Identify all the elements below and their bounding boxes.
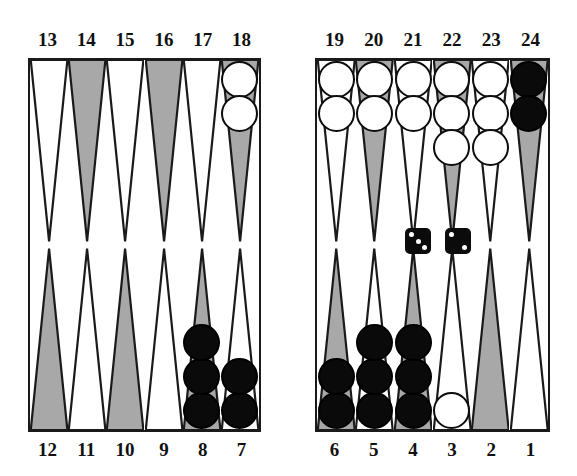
checker-black-point-5[interactable] (356, 392, 393, 429)
point-number-label-21: 21 (393, 30, 433, 50)
checker-white-point-22[interactable] (433, 95, 470, 132)
checker-white-point-23[interactable] (472, 95, 509, 132)
point-triangle-11 (69, 249, 106, 430)
point-2[interactable] (471, 245, 509, 430)
point-number-label-22: 22 (432, 30, 472, 50)
checker-white-point-20[interactable] (356, 61, 393, 98)
point-number-label-10: 10 (105, 440, 145, 460)
point-number-label-7: 7 (222, 440, 262, 460)
checker-black-point-24[interactable] (510, 61, 547, 98)
point-21[interactable] (394, 60, 432, 245)
quadrant-bottom-right (317, 245, 548, 430)
point-1[interactable] (510, 245, 548, 430)
point-8[interactable] (183, 245, 221, 430)
point-24[interactable] (510, 60, 548, 245)
point-5[interactable] (355, 245, 393, 430)
point-3[interactable] (433, 245, 471, 430)
checker-black-point-4[interactable] (395, 324, 432, 361)
checker-white-point-23[interactable] (472, 129, 509, 166)
point-triangle-12 (31, 249, 68, 430)
die-right[interactable] (445, 228, 471, 254)
checker-white-point-21[interactable] (395, 95, 432, 132)
point-triangle-10 (107, 249, 144, 430)
point-number-label-18: 18 (222, 30, 262, 50)
checker-black-point-8[interactable] (183, 358, 220, 395)
point-number-label-16: 16 (144, 30, 184, 50)
checker-black-point-6[interactable] (318, 392, 355, 429)
board-half-left (28, 58, 261, 432)
point-number-label-23: 23 (471, 30, 511, 50)
checker-black-point-8[interactable] (183, 392, 220, 429)
point-number-label-1: 1 (510, 440, 550, 460)
point-triangle-15 (107, 60, 144, 241)
checker-black-point-4[interactable] (395, 392, 432, 429)
point-number-label-14: 14 (66, 30, 106, 50)
point-9[interactable] (145, 245, 183, 430)
die-pip (462, 245, 467, 250)
point-number-label-9: 9 (144, 440, 184, 460)
point-number-label-15: 15 (105, 30, 145, 50)
point-13[interactable] (30, 60, 68, 245)
point-17[interactable] (183, 60, 221, 245)
point-triangle-1 (510, 249, 547, 430)
point-triangle-9 (145, 249, 182, 430)
point-number-label-6: 6 (315, 440, 355, 460)
point-16[interactable] (145, 60, 183, 245)
point-number-label-20: 20 (354, 30, 394, 50)
point-number-label-4: 4 (393, 440, 433, 460)
die-pip (409, 232, 414, 237)
quadrant-top-right (317, 60, 548, 245)
checker-black-point-6[interactable] (318, 358, 355, 395)
point-4[interactable] (394, 245, 432, 430)
point-20[interactable] (355, 60, 393, 245)
point-triangle-14 (69, 60, 106, 241)
checker-white-point-3[interactable] (433, 392, 470, 429)
checker-white-point-22[interactable] (433, 61, 470, 98)
board-half-right (315, 58, 550, 432)
die-pip (449, 232, 454, 237)
backgammon-board-figure: 131415161718192021222324 121110987654321 (0, 0, 577, 476)
point-7[interactable] (221, 245, 259, 430)
point-triangle-17 (183, 60, 220, 241)
checker-black-point-8[interactable] (183, 324, 220, 361)
point-number-label-24: 24 (510, 30, 550, 50)
point-number-label-5: 5 (354, 440, 394, 460)
point-number-label-12: 12 (27, 440, 67, 460)
point-triangle-13 (31, 60, 68, 241)
point-11[interactable] (68, 245, 106, 430)
point-number-label-8: 8 (183, 440, 223, 460)
checker-white-point-19[interactable] (318, 61, 355, 98)
quadrant-top-left (30, 60, 259, 245)
quadrant-bottom-left (30, 245, 259, 430)
die-pip (416, 239, 421, 244)
point-number-label-3: 3 (432, 440, 472, 460)
checker-black-point-24[interactable] (510, 95, 547, 132)
checker-black-point-5[interactable] (356, 324, 393, 361)
checker-white-point-20[interactable] (356, 95, 393, 132)
point-number-label-2: 2 (471, 440, 511, 460)
point-6[interactable] (317, 245, 355, 430)
point-number-label-11: 11 (66, 440, 106, 460)
checker-black-point-4[interactable] (395, 358, 432, 395)
die-left[interactable] (405, 228, 431, 254)
point-triangle-16 (145, 60, 182, 241)
die-pip (422, 245, 427, 250)
checker-white-point-22[interactable] (433, 129, 470, 166)
point-15[interactable] (106, 60, 144, 245)
checker-white-point-21[interactable] (395, 61, 432, 98)
checker-black-point-5[interactable] (356, 358, 393, 395)
point-triangle-2 (472, 249, 509, 430)
point-23[interactable] (471, 60, 509, 245)
point-19[interactable] (317, 60, 355, 245)
point-22[interactable] (433, 60, 471, 245)
point-14[interactable] (68, 60, 106, 245)
point-10[interactable] (106, 245, 144, 430)
point-number-label-19: 19 (315, 30, 355, 50)
checker-white-point-19[interactable] (318, 95, 355, 132)
point-number-label-17: 17 (183, 30, 223, 50)
point-12[interactable] (30, 245, 68, 430)
point-number-label-13: 13 (27, 30, 67, 50)
checker-white-point-23[interactable] (472, 61, 509, 98)
point-18[interactable] (221, 60, 259, 245)
